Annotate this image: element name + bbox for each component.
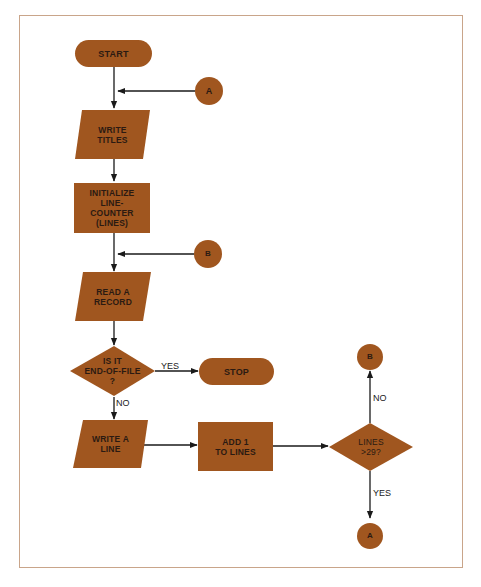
start-label: START xyxy=(75,40,152,67)
read-record-label: READ A RECORD xyxy=(75,272,151,321)
flowchart-canvas xyxy=(0,0,481,587)
initialize-label: INITIALIZE LINE- COUNTER (LINES) xyxy=(74,183,150,233)
eof-no-label: NO xyxy=(116,398,130,408)
lines-decision-label: LINES >29? xyxy=(329,423,413,471)
eof-decision-label: IS IT END-OF-FILE ? xyxy=(70,346,155,396)
connector-a-end-label: A xyxy=(357,523,383,549)
write-titles-label: WRITE TITLES xyxy=(75,110,150,159)
connector-b-mid-label: B xyxy=(194,240,222,268)
write-line-label: WRITE A LINE xyxy=(73,420,148,468)
connector-a-top-label: A xyxy=(195,77,223,105)
lines-yes-label: YES xyxy=(373,488,391,498)
eof-yes-label: YES xyxy=(161,361,179,371)
lines-no-label: NO xyxy=(373,393,387,403)
connector-b-end-label: B xyxy=(357,344,383,370)
stop-label: STOP xyxy=(199,358,274,385)
add-one-label: ADD 1 TO LINES xyxy=(198,422,273,471)
